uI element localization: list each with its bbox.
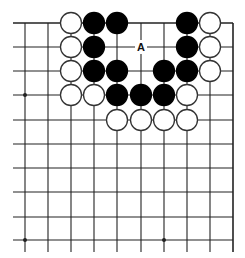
star-point — [23, 238, 27, 242]
white-stone — [131, 110, 152, 131]
white-stone — [177, 85, 198, 106]
labels-layer: A — [135, 40, 147, 54]
white-stone — [177, 110, 198, 131]
black-stone — [107, 85, 128, 106]
black-stone — [107, 13, 128, 34]
black-stone — [107, 61, 128, 82]
go-board: A — [0, 0, 245, 258]
star-point — [23, 93, 27, 97]
white-stone — [84, 85, 105, 106]
white-stone — [200, 37, 221, 58]
white-stone — [200, 61, 221, 82]
board-grid — [13, 23, 233, 252]
white-stone — [154, 110, 175, 131]
point-label: A — [137, 41, 145, 53]
white-stone — [61, 85, 82, 106]
black-stone — [177, 37, 198, 58]
black-stone — [177, 13, 198, 34]
white-stone — [61, 37, 82, 58]
white-stone — [61, 61, 82, 82]
black-stone — [84, 61, 105, 82]
white-stone — [61, 13, 82, 34]
white-stone — [200, 13, 221, 34]
black-stone — [131, 85, 152, 106]
star-point — [162, 238, 166, 242]
black-stone — [154, 61, 175, 82]
black-stone — [177, 61, 198, 82]
black-stone — [84, 37, 105, 58]
white-stone — [107, 110, 128, 131]
black-stone — [154, 85, 175, 106]
black-stone — [84, 13, 105, 34]
